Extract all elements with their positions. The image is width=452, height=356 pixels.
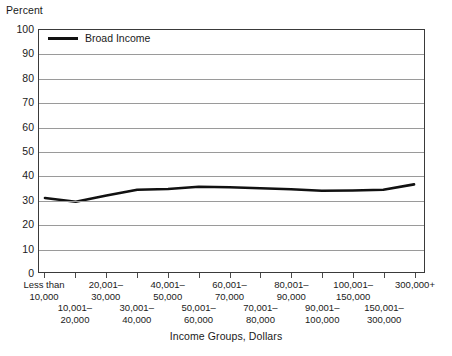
y-tick-label: 20 bbox=[0, 219, 34, 230]
x-tick-label: 60,001–70,000 bbox=[212, 279, 246, 302]
x-tick-label-line1: 80,001– bbox=[274, 279, 308, 291]
y-tick-label: 60 bbox=[0, 122, 34, 133]
x-tick-label-line1: 10,001– bbox=[58, 302, 92, 314]
y-axis-title: Percent bbox=[6, 4, 43, 16]
x-tick-label-line2: 60,000 bbox=[181, 314, 215, 326]
x-tick-label-line2: 300,000 bbox=[364, 314, 404, 326]
x-tick bbox=[291, 273, 292, 278]
x-tick-label-line1: 20,001– bbox=[89, 279, 123, 291]
x-tick-label-line2: 20,000 bbox=[58, 314, 92, 326]
x-tick bbox=[137, 273, 138, 278]
x-tick-label-line2: 150,000 bbox=[333, 291, 373, 303]
gridline bbox=[39, 250, 424, 251]
x-tick-label: 20,001–30,000 bbox=[89, 279, 123, 302]
plot-area bbox=[38, 29, 425, 273]
legend-label-broad-income: Broad Income bbox=[85, 33, 150, 44]
gridline bbox=[39, 176, 424, 177]
x-tick-label-line1: 40,001– bbox=[150, 279, 184, 291]
x-tick-label: 90,001–100,000 bbox=[305, 302, 339, 325]
x-tick-label-line2: 70,000 bbox=[212, 291, 246, 303]
x-tick-label-line1: 50,001– bbox=[181, 302, 215, 314]
x-tick-label: Less than10,000 bbox=[23, 279, 64, 302]
y-tick-label: 70 bbox=[0, 97, 34, 108]
x-tick-label-line2: 90,000 bbox=[274, 291, 308, 303]
x-tick-label: 70,001–80,000 bbox=[243, 302, 277, 325]
x-tick-label-line1: 100,001– bbox=[333, 279, 373, 291]
x-tick-label: 300,000+ bbox=[395, 279, 435, 291]
x-tick-label-line1: 90,001– bbox=[305, 302, 339, 314]
legend-swatch-broad-income bbox=[48, 37, 78, 40]
gridline bbox=[39, 79, 424, 80]
x-tick-label-line2: 10,000 bbox=[23, 291, 64, 303]
x-tick bbox=[44, 273, 45, 278]
y-tick-label: 10 bbox=[0, 244, 34, 255]
x-tick-label-line2: 50,000 bbox=[150, 291, 184, 303]
x-axis-title: Income Groups, Dollars bbox=[0, 330, 452, 342]
x-tick-label-line1: 60,001– bbox=[212, 279, 246, 291]
x-tick-label-line2: 80,000 bbox=[243, 314, 277, 326]
y-axis-tick-labels: 0102030405060708090100 bbox=[0, 29, 34, 273]
x-tick-label: 50,001–60,000 bbox=[181, 302, 215, 325]
data-line-svg bbox=[39, 30, 424, 272]
y-tick-label: 90 bbox=[0, 48, 34, 59]
x-tick bbox=[384, 273, 385, 278]
x-tick-label-line2: 40,000 bbox=[120, 314, 154, 326]
x-tick bbox=[353, 273, 354, 278]
x-tick bbox=[106, 273, 107, 278]
chart-legend: Broad Income bbox=[48, 33, 150, 44]
y-tick-label: 100 bbox=[0, 24, 34, 35]
gridline bbox=[39, 128, 424, 129]
x-tick-label: 80,001–90,000 bbox=[274, 279, 308, 302]
gridline bbox=[39, 103, 424, 104]
x-tick-label: 100,001–150,000 bbox=[333, 279, 373, 302]
x-tick-label: 150,001–300,000 bbox=[364, 302, 404, 325]
x-tick-label-line2: 100,000 bbox=[305, 314, 339, 326]
chart-container: Percent 0102030405060708090100 Broad Inc… bbox=[0, 0, 452, 356]
y-tick-label: 50 bbox=[0, 146, 34, 157]
x-tick-label-line2: 30,000 bbox=[89, 291, 123, 303]
x-tick-label-line1: Less than bbox=[23, 279, 64, 291]
x-axis-tick-labels: Less than10,00010,001–20,00020,001–30,00… bbox=[0, 279, 452, 331]
x-tick bbox=[322, 273, 323, 278]
y-tick-label: 0 bbox=[0, 268, 34, 279]
x-tick-label-line1: 300,000+ bbox=[395, 279, 435, 291]
x-tick-label: 30,001–40,000 bbox=[120, 302, 154, 325]
gridline bbox=[39, 54, 424, 55]
x-tick bbox=[260, 273, 261, 278]
x-tick bbox=[415, 273, 416, 278]
x-tick-label-line1: 70,001– bbox=[243, 302, 277, 314]
x-tick-label-line1: 30,001– bbox=[120, 302, 154, 314]
y-tick-label: 80 bbox=[0, 73, 34, 84]
gridline bbox=[39, 152, 424, 153]
x-tick-label: 10,001–20,000 bbox=[58, 302, 92, 325]
x-tick bbox=[199, 273, 200, 278]
series-line-broad-income bbox=[45, 184, 414, 201]
x-tick bbox=[75, 273, 76, 278]
x-tick bbox=[168, 273, 169, 278]
gridline bbox=[39, 225, 424, 226]
x-tick bbox=[230, 273, 231, 278]
y-tick-label: 30 bbox=[0, 195, 34, 206]
x-tick-label-line1: 150,001– bbox=[364, 302, 404, 314]
gridline bbox=[39, 201, 424, 202]
x-tick-label: 40,001–50,000 bbox=[150, 279, 184, 302]
y-tick-label: 40 bbox=[0, 170, 34, 181]
